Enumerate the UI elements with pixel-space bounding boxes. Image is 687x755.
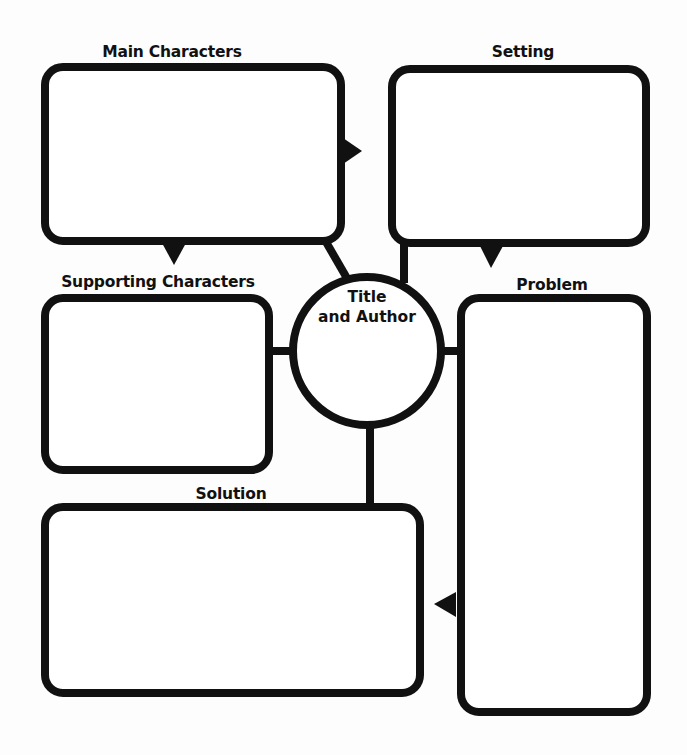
setting-box[interactable] [388, 65, 650, 247]
title-author-label: Title and Author [318, 287, 416, 327]
main-characters-box[interactable] [41, 63, 345, 245]
setting-label: Setting [492, 43, 555, 61]
problem-label: Problem [516, 276, 587, 294]
supporting-characters-label: Supporting Characters [61, 273, 255, 291]
title-label: Title [318, 287, 416, 307]
arrow-down-icon [162, 243, 186, 265]
author-label: and Author [318, 307, 416, 327]
problem-box[interactable] [457, 294, 651, 716]
arrow-left-icon [434, 592, 456, 617]
main-characters-label: Main Characters [102, 43, 242, 61]
arrow-down-icon [480, 246, 503, 268]
arrow-right-icon [343, 138, 362, 164]
supporting-characters-box[interactable] [41, 294, 273, 474]
solution-label: Solution [196, 485, 267, 503]
solution-box[interactable] [41, 503, 424, 697]
